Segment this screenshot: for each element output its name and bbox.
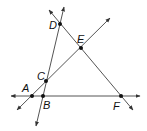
label-E: E: [77, 33, 85, 45]
label-F: F: [113, 100, 121, 112]
point-E: [79, 46, 83, 50]
point-D: [58, 22, 62, 26]
point-B: [41, 94, 45, 98]
point-F: [119, 94, 123, 98]
geometry-diagram: ABCDEF: [0, 0, 147, 131]
labels-layer: ABCDEF: [21, 19, 121, 112]
label-C: C: [37, 70, 45, 82]
label-D: D: [49, 19, 57, 31]
lines-layer: [11, 7, 140, 126]
label-B: B: [43, 99, 50, 111]
label-A: A: [21, 82, 29, 94]
point-A: [30, 94, 34, 98]
